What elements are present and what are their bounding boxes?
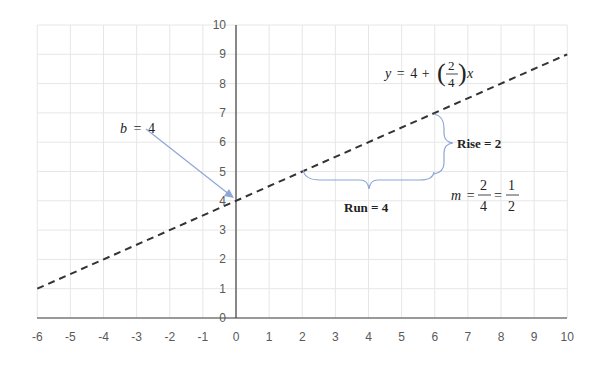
x-tick-label: 8 (498, 330, 505, 344)
svg-text:2: 2 (508, 199, 515, 214)
chart: -6-5-4-3-2-1012345678910 012345678910 b … (0, 0, 601, 367)
svg-text:1: 1 (508, 178, 515, 193)
intercept-label: b = 4 (120, 121, 155, 136)
x-tick-label: 9 (531, 330, 538, 344)
x-tick-label: -5 (65, 330, 76, 344)
x-tick-label: 1 (266, 330, 273, 344)
x-tick-label: -3 (131, 330, 142, 344)
x-tick-label: 2 (299, 330, 306, 344)
svg-text:2: 2 (480, 178, 487, 193)
arrow-line (146, 129, 230, 195)
equation-annotation: y = 4 + ( 2 4 ) x (383, 58, 474, 90)
svg-text:): ) (458, 58, 467, 87)
x-tick-label: -4 (98, 330, 109, 344)
svg-text:(: ( (437, 58, 446, 87)
rise-label: Rise = 2 (457, 136, 501, 151)
x-tick-label: -2 (164, 330, 175, 344)
svg-text:y = 4 +: y = 4 + (383, 66, 430, 81)
run-label: Run = 4 (344, 200, 389, 215)
x-tick-label: -6 (32, 330, 43, 344)
y-tick-label: 0 (219, 311, 226, 325)
svg-text:4: 4 (448, 75, 455, 90)
y-tick-label: 8 (219, 77, 226, 91)
x-tick-label: 3 (332, 330, 339, 344)
svg-text:2: 2 (448, 58, 455, 73)
y-tick-label: 3 (219, 223, 226, 237)
x-tick-label: 0 (233, 330, 240, 344)
x-tick-label: -1 (198, 330, 209, 344)
y-tick-label: 7 (219, 106, 226, 120)
x-tick-label: 6 (431, 330, 438, 344)
x-tick-labels: -6-5-4-3-2-1012345678910 (32, 330, 574, 344)
y-tick-label: 10 (213, 18, 227, 32)
y-tick-label: 2 (219, 252, 226, 266)
x-tick-label: 7 (465, 330, 472, 344)
svg-text:x: x (466, 66, 474, 81)
y-tick-label: 6 (219, 135, 226, 149)
rise-brace (434, 114, 453, 174)
x-tick-label: 5 (398, 330, 405, 344)
y-tick-label: 9 (219, 47, 226, 61)
svg-text:4: 4 (480, 199, 487, 214)
y-tick-label: 5 (219, 165, 226, 179)
svg-text:m =: m = (451, 188, 475, 203)
x-tick-label: 10 (561, 330, 575, 344)
svg-text:=: = (494, 188, 502, 203)
slope-annotation: m = 2 4 = 1 2 (451, 178, 519, 214)
y-tick-label: 1 (219, 282, 226, 296)
x-tick-label: 4 (365, 330, 372, 344)
